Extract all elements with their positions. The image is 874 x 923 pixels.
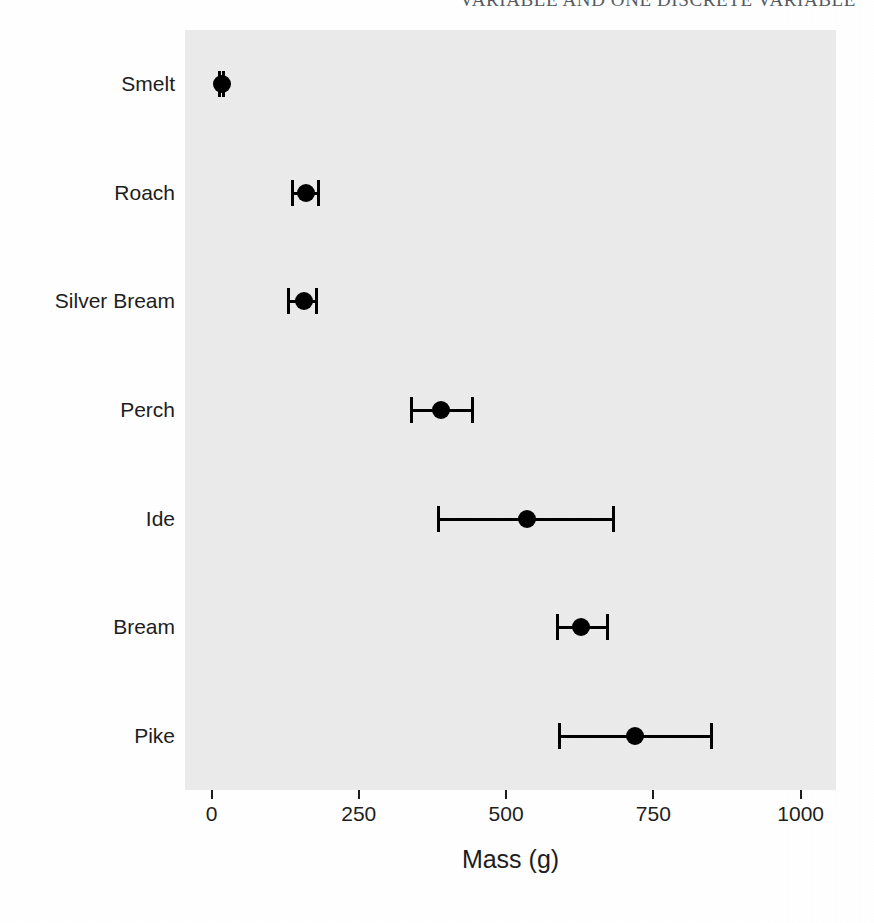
- y-tick-label-pike: Pike: [134, 724, 175, 748]
- error-bar-cap-low: [410, 397, 413, 423]
- error-bar-cap-high: [710, 723, 713, 749]
- y-tick-label-smelt: Smelt: [121, 72, 175, 96]
- error-bar-cap-low: [556, 614, 559, 640]
- x-tick-label: 1000: [777, 802, 824, 826]
- error-bar-cap-high: [317, 180, 320, 206]
- y-tick-label-roach: Roach: [114, 181, 175, 205]
- y-axis-labels: SmeltRoachSilver BreamPerchIdeBreamPike: [0, 30, 175, 790]
- y-tick-label-bream: Bream: [113, 615, 175, 639]
- x-tick-mark: [800, 790, 802, 799]
- x-tick-mark: [652, 790, 654, 799]
- data-point-marker: [295, 292, 313, 310]
- error-bar-cap-high: [471, 397, 474, 423]
- x-tick-mark: [505, 790, 507, 799]
- dot-plot-figure: SmeltRoachSilver BreamPerchIdeBreamPike …: [0, 0, 874, 923]
- error-bar-cap-low: [558, 723, 561, 749]
- data-point-marker: [297, 184, 315, 202]
- y-tick-label-ide: Ide: [146, 507, 175, 531]
- error-bar-cap-low: [291, 180, 294, 206]
- x-tick-mark: [358, 790, 360, 799]
- error-bar-cap-high: [606, 614, 609, 640]
- data-point-marker: [518, 510, 536, 528]
- x-tick-label: 500: [489, 802, 524, 826]
- data-point-marker: [432, 401, 450, 419]
- x-tick-mark: [211, 790, 213, 799]
- error-bar-cap-low: [437, 506, 440, 532]
- error-bar-cap-high: [612, 506, 615, 532]
- error-bar-cap-high: [315, 288, 318, 314]
- data-point-marker: [626, 727, 644, 745]
- data-point-marker: [572, 618, 590, 636]
- y-tick-label-perch: Perch: [120, 398, 175, 422]
- error-bar-cap-low: [287, 288, 290, 314]
- x-axis-title: Mass (g): [185, 845, 836, 874]
- x-tick-label: 250: [341, 802, 376, 826]
- x-tick-label: 0: [206, 802, 218, 826]
- data-point-marker: [213, 75, 231, 93]
- x-axis: 02505007501000: [185, 790, 836, 836]
- y-tick-label-silver-bream: Silver Bream: [55, 289, 175, 313]
- plot-panel: [185, 30, 836, 790]
- x-tick-label: 750: [636, 802, 671, 826]
